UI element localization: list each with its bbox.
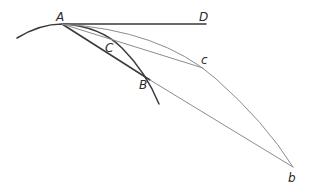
chord-Ac	[62, 24, 203, 68]
label-D: D	[199, 10, 208, 24]
small-circle-arc	[17, 24, 159, 104]
line-Bb	[150, 80, 293, 167]
label-B: B	[139, 78, 147, 92]
label-C: C	[105, 41, 114, 55]
geometry-diagram: A D C c B b	[0, 0, 310, 190]
label-A: A	[55, 10, 64, 24]
label-b: b	[288, 171, 296, 185]
label-c: c	[201, 53, 208, 67]
